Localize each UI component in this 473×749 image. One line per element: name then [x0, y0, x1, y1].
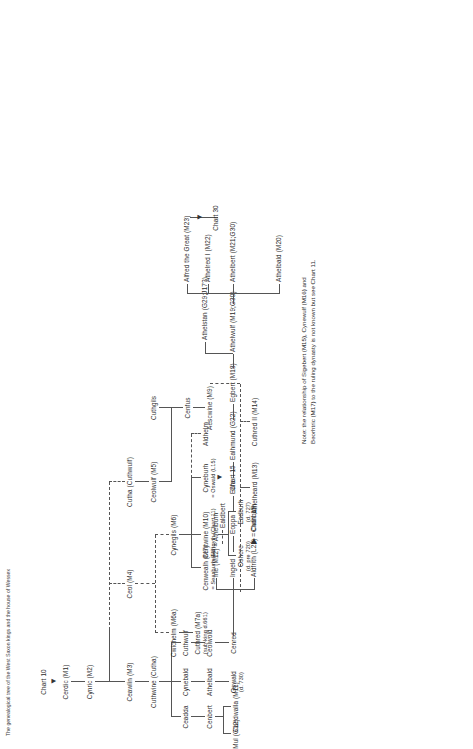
- node-cuthred-m7a: Cuthred (M7a) (sub-king d.661): [194, 612, 208, 655]
- chart-note: Note: the relationship of Sigebert (M15)…: [300, 259, 317, 444]
- arrow-down-icon-chart30: ▼: [196, 213, 204, 221]
- link-bus-athelheard: [240, 487, 250, 488]
- link-cerdic-cynric: [71, 681, 85, 682]
- link-cenbert-bus: [215, 716, 223, 717]
- link-ingeld-eoppa: [233, 536, 234, 552]
- bus-cynegils-children: [191, 478, 192, 568]
- link-bus-cynebald: [171, 681, 181, 682]
- node-cutha: Cutha (Cuthwulf): [126, 457, 134, 507]
- bus-ceolwulf-children: [171, 408, 172, 482]
- bus-centwine-children: [228, 512, 229, 556]
- link-eoppa-eafa: [233, 496, 234, 512]
- link-bus-aldhelm: [191, 433, 201, 434]
- node-eoppa: Eoppa: [229, 515, 237, 534]
- link-centwine-bus: [218, 534, 228, 535]
- link-cyneburh-aldhelm-dashed: [191, 434, 192, 478]
- node-oshere-detail: (d. pre 720): [245, 541, 252, 571]
- node-ceawlin: Ceawlin (M3): [126, 662, 134, 701]
- link-bus-cutha: [109, 481, 125, 482]
- link-ceol-down: [135, 583, 155, 584]
- node-ealdbert: Ealdbert: [219, 503, 227, 528]
- link-aescwine-dashed-down: [210, 383, 240, 384]
- bus-ceol-children: [155, 535, 156, 633]
- link-cuthgils-cenfus: [171, 407, 183, 408]
- link-ceolwold-cenred: [215, 642, 229, 643]
- node-athelheard: Athelheard (M13): [251, 462, 259, 513]
- node-ingeld: Ingeld: [229, 559, 237, 577]
- node-chart10-ref[interactable]: Chart 10: [40, 669, 48, 695]
- node-cuthwulf: Cuthwulf: [182, 630, 190, 656]
- bus-cenbert-children: [223, 707, 224, 734]
- node-centwine-spouse: = Eangyth (Chart 11): [210, 508, 217, 561]
- link-bus-alfred: [187, 284, 188, 294]
- node-oswald-730: Oswald (d. 730): [230, 671, 244, 693]
- node-athelbert: Athelbert (M21;G30): [229, 222, 237, 282]
- link-bus-cuthgils: [159, 407, 171, 408]
- ref-chart30[interactable]: Chart 30: [212, 205, 220, 231]
- link-cwichelm-cuthred: [179, 632, 193, 633]
- node-cenbert: Cenbert: [206, 705, 214, 729]
- link-bus-centwine: [191, 534, 201, 535]
- link-bus-athelstan: [205, 342, 206, 354]
- node-cynric: Cynric (M2): [86, 665, 94, 699]
- node-oswald-730-name: Oswald: [230, 671, 237, 693]
- link-cuthwine-bus: [159, 681, 171, 682]
- node-ceadda: Ceadda: [182, 705, 190, 728]
- node-athelbald-m20: Athelbald (M20): [275, 235, 283, 282]
- link-bus-caedwalla: [223, 706, 231, 707]
- arrow-right-icon-chart15b: ▶: [250, 538, 258, 544]
- link-bus-eadburh: [228, 511, 236, 512]
- link-bus-mul: [223, 733, 231, 734]
- node-ceol: Ceol (M4): [126, 569, 134, 598]
- arrow-down-icon: ▼: [50, 677, 58, 685]
- bus-cynric-children: [109, 630, 110, 682]
- link-ceolwulf-bus: [159, 481, 171, 482]
- bus-cenred-children: [216, 589, 254, 590]
- link-bus-cuthred-ii: [240, 421, 250, 422]
- link-bus-athelbald-m20: [279, 284, 280, 294]
- link-bus-cwichelm: [155, 632, 169, 633]
- node-cerdic: Cerdic (M1): [62, 665, 70, 700]
- node-cyneburh-name: Cyneburh: [202, 464, 209, 493]
- link-bus-athelred-i: [208, 284, 209, 294]
- link-bus-ceol: [109, 583, 125, 584]
- node-cwichelm: Cwichelm (M6a): [170, 609, 178, 657]
- node-cuthgils: Cuthgils: [150, 396, 158, 420]
- chart-heading: The genealogical tree of the West Saxon …: [5, 569, 11, 736]
- link-ceadda-cenbert: [191, 716, 205, 717]
- node-alfred: Alfred the Great (M23): [183, 216, 191, 282]
- link-bus-athelbert: [233, 284, 234, 294]
- arrow-down-icon-chart15a: ▼: [216, 473, 224, 481]
- link-cynebald-athelbald: [191, 681, 205, 682]
- link-cenfus-aescwine: [193, 407, 205, 408]
- link-egbert-athelwulf: [233, 354, 234, 368]
- link-athelbald-oswald: [215, 681, 229, 682]
- bus-late-kings-dashed: [240, 384, 241, 592]
- link-ealhmund-egbert: [233, 404, 234, 420]
- link-bus-ceadda: [171, 716, 181, 717]
- node-cuthred-m7a-detail: (sub-king d.661): [202, 612, 209, 655]
- node-aescwine: Aescwine (M9): [206, 386, 214, 430]
- link-bus-aldfrith: [254, 578, 255, 590]
- node-oswald-730-detail: (d. 730): [238, 671, 245, 693]
- link-bus-ceawlin: [109, 681, 125, 682]
- node-athelred-i: Athelred I (M22): [204, 234, 212, 282]
- bus-athelwulf-athelstan: [205, 353, 233, 354]
- link-cutha-ceolwulf: [135, 481, 149, 482]
- node-ceolwulf: Ceolwulf (M5): [150, 461, 158, 502]
- node-athelbald: Athelbald: [206, 668, 214, 696]
- node-centwine: Centwine (M10) = Eangyth (Chart 11): [202, 508, 216, 561]
- node-cenfus: Cenfus: [184, 397, 192, 418]
- link-cynric-bus: [95, 681, 109, 682]
- ref-chart15-a[interactable]: Chart 15: [229, 465, 237, 491]
- node-centwine-name: Centwine (M10): [202, 512, 209, 559]
- node-cynebald: Cynebald: [182, 668, 190, 696]
- link-ine-ealdbert: [222, 530, 223, 544]
- node-cuthred-ii: Cuthred II (M14): [251, 398, 259, 447]
- node-cuthwine: Cuthwine (Cutha): [150, 656, 158, 708]
- link-bus-cenwealh: [191, 567, 201, 568]
- node-cynegils: Cynegils (M6): [170, 514, 178, 555]
